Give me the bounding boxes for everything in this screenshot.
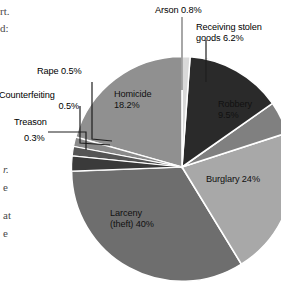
pie-label-larceny-line1: Larceny (110, 208, 142, 219)
pie-chart-figure: Arson 0.8% Receiving stolen goods 6.2% R… (0, 0, 281, 298)
pie-label-burglary: Burglary 24% (206, 174, 260, 185)
pie-label-receiving-stolen-goods-line1: Receiving stolen (196, 22, 262, 33)
pie-label-counterfeiting-line2: 0.5% (0, 101, 79, 112)
pie-label-treason-line2: 0.3% (24, 133, 45, 144)
pie-label-counterfeiting-line1: Counterfeiting (0, 90, 55, 101)
margin-text-fragment-5: at (3, 209, 11, 221)
pie-label-receiving-stolen-goods-line2: goods 6.2% (196, 33, 244, 44)
pie-label-arson: Arson 0.8% (155, 5, 202, 16)
pie-label-robbery-line1: Robbery (218, 99, 252, 110)
pie-label-larceny-line2: (theft) 40% (110, 219, 154, 230)
pie-chart-graphic (0, 0, 281, 298)
pie-label-treason-line1: Treason (14, 117, 47, 128)
margin-text-fragment-1: rt. (0, 5, 9, 17)
pie-label-homicide-line2: 18.2% (114, 100, 140, 111)
pie-label-homicide-line1: Homicide (114, 89, 152, 100)
margin-text-fragment-3: r. (3, 163, 9, 175)
margin-text-fragment-6: e (3, 227, 8, 239)
margin-text-fragment-4: e (3, 181, 8, 193)
pie-label-rape: Rape 0.5% (37, 66, 82, 77)
margin-text-fragment-2: d: (0, 22, 9, 34)
pie-label-robbery-line2: 9.5% (218, 110, 239, 121)
